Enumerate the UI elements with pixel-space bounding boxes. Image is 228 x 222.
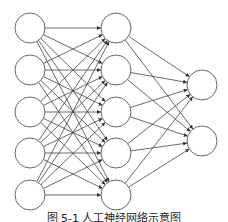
output-node (187, 70, 217, 100)
input-node (15, 180, 45, 210)
input-node (15, 55, 45, 85)
input-node (15, 138, 45, 168)
hidden-node (101, 138, 131, 168)
hidden-node (101, 180, 131, 210)
hidden-node (101, 55, 131, 85)
output-node (187, 126, 217, 156)
edge-arrow (131, 143, 187, 151)
edge-arrow (125, 97, 193, 183)
edge-arrow (131, 73, 187, 83)
edge-arrow (129, 149, 190, 187)
hidden-node (101, 13, 131, 43)
neural-network-diagram (0, 0, 228, 212)
hidden-node (101, 97, 131, 127)
input-node (15, 97, 45, 127)
edge-arrow (130, 117, 188, 136)
input-node (15, 13, 45, 43)
edge-arrow (130, 89, 187, 107)
figure-caption: 图 5-1 人工神经网络示意图 (0, 212, 228, 222)
edge-arrow (125, 40, 193, 129)
